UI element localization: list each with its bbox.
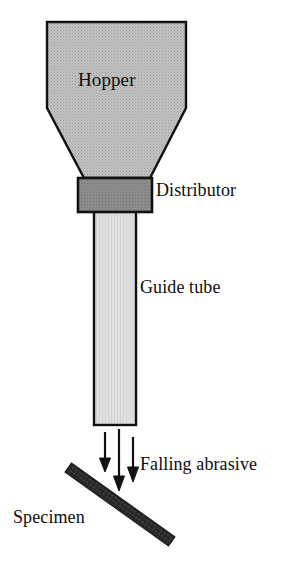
- label-hopper: Hopper: [78, 70, 136, 89]
- guide-tube-shape: [94, 206, 136, 425]
- label-distributor: Distributor: [156, 181, 236, 199]
- arrow-right-icon: [128, 437, 139, 482]
- label-falling-abrasive: Falling abrasive: [140, 455, 257, 473]
- label-guide-tube: Guide tube: [140, 278, 220, 296]
- distributor-shape: [78, 178, 152, 212]
- falling-abrasive-arrows: [100, 429, 139, 491]
- arrow-left-icon: [100, 432, 111, 472]
- arrow-middle-icon: [114, 429, 125, 491]
- hopper-shape: [47, 22, 186, 178]
- label-specimen: Specimen: [13, 508, 85, 526]
- falling-abrasive-apparatus-diagram: Hopper Distributor Guide tube Falling ab…: [0, 0, 293, 587]
